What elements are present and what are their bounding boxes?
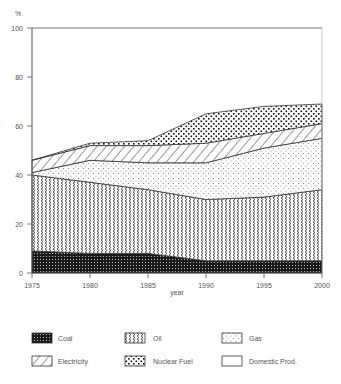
x-tick-label: 1975: [24, 282, 40, 289]
legend-label-gas: Gas: [249, 335, 262, 342]
y-axis-unit: %: [15, 10, 21, 17]
legend-label-oil: Oil: [153, 335, 162, 342]
legend-label-electricity: Electricity: [58, 358, 88, 366]
y-tick-label: 100: [11, 25, 23, 32]
legend-item-gas: Gas: [222, 333, 262, 343]
y-ticks: 020406080100: [11, 25, 32, 277]
legend-item-coal: Coal: [32, 333, 73, 343]
legend-item-domestic-prod: Domestic Prod.: [222, 356, 297, 366]
nuclear-fuel-swatch-icon: [125, 356, 145, 366]
oil-swatch-icon: [125, 333, 145, 343]
y-tick-label: 0: [19, 270, 23, 277]
x-tick-label: 1980: [82, 282, 98, 289]
y-tick-label: 40: [15, 172, 23, 179]
y-tick-label: 20: [15, 221, 23, 228]
x-tick-label: 1985: [140, 282, 156, 289]
legend-item-nuclear-fuel: Nuclear Fuel: [125, 356, 193, 366]
y-tick-label: 80: [15, 74, 23, 81]
legend: Coal Oil Gas Electricity Nuclear Fuel Do…: [32, 333, 297, 366]
gas-swatch-icon: [222, 333, 242, 343]
legend-item-electricity: Electricity: [32, 356, 88, 366]
y-tick-label: 60: [15, 123, 23, 130]
x-tick-label: 1990: [198, 282, 214, 289]
x-axis-title: year: [170, 289, 184, 297]
electricity-swatch-icon: [32, 356, 52, 366]
coal-swatch-icon: [32, 333, 52, 343]
legend-label-coal: Coal: [58, 335, 73, 342]
stacked-area-chart: 020406080100 197519801985199019952000 % …: [0, 0, 341, 384]
domestic-prod-swatch-icon: [222, 356, 242, 366]
plot-areas: [32, 104, 322, 273]
x-tick-label: 2000: [314, 282, 330, 289]
legend-label-domestic-prod: Domestic Prod.: [249, 358, 297, 365]
x-ticks: 197519801985199019952000: [24, 273, 330, 289]
legend-item-oil: Oil: [125, 333, 162, 343]
x-tick-label: 1995: [256, 282, 272, 289]
legend-label-nuclear-fuel: Nuclear Fuel: [153, 358, 193, 365]
